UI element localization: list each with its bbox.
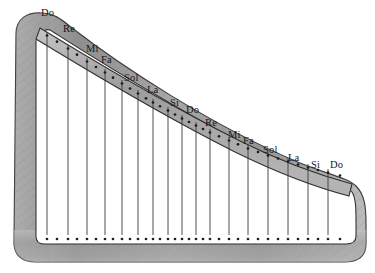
- harp-diagram: DoReMiFaSolLaSiDoReMiFaSolLaSiDo: [0, 0, 375, 273]
- tuning-peg[interactable]: [339, 174, 342, 177]
- soundboard-peg[interactable]: [267, 238, 270, 241]
- note-label-fa-11: Fa: [243, 136, 254, 147]
- tuning-peg[interactable]: [188, 121, 191, 124]
- soundboard-peg[interactable]: [188, 238, 191, 241]
- tuning-peg[interactable]: [237, 143, 240, 146]
- note-label-re-2: Re: [63, 24, 75, 35]
- soundboard-peg[interactable]: [209, 238, 212, 241]
- tuning-peg[interactable]: [129, 87, 132, 90]
- tuning-peg[interactable]: [112, 76, 115, 79]
- note-label-si-14: Si: [311, 160, 320, 171]
- tuning-peg[interactable]: [297, 163, 300, 166]
- soundboard-peg[interactable]: [167, 238, 170, 241]
- tuning-peg[interactable]: [247, 147, 250, 150]
- note-label-si-7: Si: [170, 98, 179, 109]
- tuning-peg[interactable]: [86, 60, 89, 63]
- soundboard-peg[interactable]: [112, 238, 115, 241]
- tuning-peg[interactable]: [76, 53, 79, 56]
- soundboard-peg[interactable]: [104, 238, 107, 241]
- note-label-fa-4: Fa: [101, 55, 112, 66]
- soundboard-peg[interactable]: [152, 238, 155, 241]
- soundboard-peg[interactable]: [86, 238, 89, 241]
- tuning-peg[interactable]: [327, 171, 330, 174]
- note-label-do-8: Do: [186, 105, 199, 116]
- harp-illustration: [0, 0, 375, 273]
- tuning-peg[interactable]: [46, 34, 49, 37]
- soundboard-peg[interactable]: [46, 238, 49, 241]
- soundboard-peg[interactable]: [137, 238, 140, 241]
- tuning-peg[interactable]: [152, 101, 155, 104]
- tuning-peg[interactable]: [277, 157, 280, 160]
- soundboard-peg[interactable]: [218, 238, 221, 241]
- note-label-do-15: Do: [330, 160, 343, 171]
- soundboard-peg[interactable]: [228, 238, 231, 241]
- soundboard-peg[interactable]: [202, 238, 205, 241]
- note-label-sol-5: Sol: [124, 73, 139, 84]
- soundboard-peg[interactable]: [327, 238, 330, 241]
- tuning-peg[interactable]: [209, 131, 212, 134]
- tuning-peg[interactable]: [181, 117, 184, 120]
- tuning-peg[interactable]: [159, 105, 162, 108]
- tuning-peg[interactable]: [167, 109, 170, 112]
- note-label-la-6: La: [147, 85, 158, 96]
- soundboard-peg[interactable]: [317, 238, 320, 241]
- note-label-re-9: Re: [205, 118, 217, 129]
- tuning-peg[interactable]: [218, 135, 221, 138]
- soundboard-peg[interactable]: [129, 238, 132, 241]
- note-label-do-1: Do: [41, 8, 54, 19]
- tuning-peg[interactable]: [137, 92, 140, 95]
- tuning-peg[interactable]: [67, 47, 70, 50]
- tuning-peg[interactable]: [174, 113, 177, 116]
- tuning-peg[interactable]: [145, 97, 148, 100]
- note-label-mi-10: Mi: [228, 130, 241, 141]
- soundboard-peg[interactable]: [287, 238, 290, 241]
- tuning-peg[interactable]: [257, 151, 260, 154]
- soundboard-peg[interactable]: [95, 238, 98, 241]
- soundboard-peg[interactable]: [307, 238, 310, 241]
- tuning-peg[interactable]: [202, 128, 205, 131]
- soundboard-peg[interactable]: [121, 238, 124, 241]
- soundboard-peg[interactable]: [277, 238, 280, 241]
- soundboard-peg[interactable]: [339, 238, 342, 241]
- soundboard-peg[interactable]: [174, 238, 177, 241]
- tuning-peg[interactable]: [307, 166, 310, 169]
- tuning-peg[interactable]: [104, 71, 107, 74]
- soundboard-peg[interactable]: [195, 238, 198, 241]
- soundboard-peg[interactable]: [247, 238, 250, 241]
- tuning-peg[interactable]: [95, 66, 98, 69]
- note-label-sol-12: Sol: [263, 145, 278, 156]
- soundboard-peg[interactable]: [67, 238, 70, 241]
- soundboard-peg[interactable]: [76, 238, 79, 241]
- soundboard-peg[interactable]: [237, 238, 240, 241]
- soundboard-peg[interactable]: [297, 238, 300, 241]
- soundboard-peg[interactable]: [56, 238, 59, 241]
- soundboard-peg[interactable]: [181, 238, 184, 241]
- note-label-la-13: La: [288, 153, 299, 164]
- soundboard-peg[interactable]: [159, 238, 162, 241]
- note-label-mi-3: Mi: [86, 44, 99, 55]
- tuning-peg[interactable]: [195, 124, 198, 127]
- soundboard-peg[interactable]: [257, 238, 260, 241]
- soundboard-peg[interactable]: [145, 238, 148, 241]
- tuning-peg[interactable]: [121, 82, 124, 85]
- tuning-peg[interactable]: [56, 40, 59, 43]
